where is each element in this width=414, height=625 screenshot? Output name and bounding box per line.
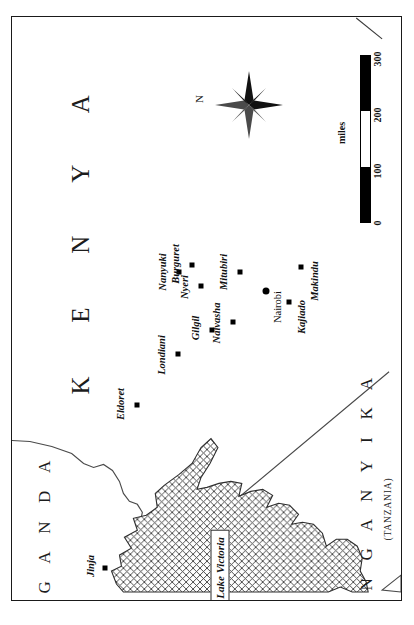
lake-victoria-shape (111, 439, 368, 592)
compass-rose: N (197, 65, 289, 149)
scale-tick-100: 100 (373, 164, 383, 179)
scale-tick-0: 0 (373, 221, 383, 226)
city-label-mitubiri: Mitubiri (219, 254, 230, 290)
scale-bar (360, 55, 371, 223)
country-sublabel-tanzania: (TANZANIA) (384, 477, 394, 540)
scale-segment-2 (361, 111, 370, 166)
city-label-kajiado: Kajiado (297, 300, 308, 334)
city-marker-nyeri[interactable] (199, 284, 204, 289)
city-label-naivasha: Naivasha (212, 303, 223, 344)
city-marker-kajiado[interactable] (287, 300, 292, 305)
frame-corner-notch (356, 18, 382, 39)
country-label-tanganyika: T A N G A N Y I K A (358, 371, 375, 601)
city-label-londiani: Londiani (157, 335, 168, 375)
city-marker-gilgil[interactable] (210, 328, 215, 333)
map-frame: K E N Y A U G A N D A T A N G A N Y I K … (11, 16, 402, 601)
city-label-jinja: Jinja (86, 555, 97, 577)
scale-bar-group: 300 200 100 0 miles (330, 45, 394, 235)
scale-tick-200: 200 (373, 108, 383, 123)
compass-star-icon (197, 65, 289, 149)
city-marker-naivasha[interactable] (231, 320, 236, 325)
coast-sliver (382, 575, 401, 592)
city-label-nanyuki: Nanyuki (158, 253, 169, 290)
city-label-nairobi: Nairobi (273, 291, 284, 323)
city-marker-makindu[interactable] (299, 265, 304, 270)
city-label-nyeri: Nyeri (180, 275, 191, 299)
country-label-uganda: U G A N D A (36, 454, 53, 601)
city-marker-jinja[interactable] (103, 566, 108, 571)
scale-tick-300: 300 (373, 52, 383, 67)
city-marker-mitubiri[interactable] (238, 270, 243, 275)
map-page: K E N Y A U G A N D A T A N G A N Y I K … (0, 0, 414, 625)
city-label-eldoret: Eldoret (116, 388, 127, 420)
city-label-gilgil: Gilgil (191, 316, 202, 341)
compass-north-label: N (194, 95, 205, 103)
scale-segment-3 (361, 56, 370, 111)
scale-unit-label: miles (337, 122, 347, 144)
city-marker-burguret[interactable] (190, 263, 195, 268)
lake-victoria-label: Lake Victoria (211, 529, 230, 601)
scale-segment-1 (361, 167, 370, 222)
city-marker-nairobi[interactable] (263, 288, 270, 295)
country-label-kenya: K E N Y A (68, 71, 93, 394)
city-marker-eldoret[interactable] (135, 403, 140, 408)
city-marker-londiani[interactable] (176, 352, 181, 357)
city-label-makindu: Makindu (310, 261, 321, 301)
